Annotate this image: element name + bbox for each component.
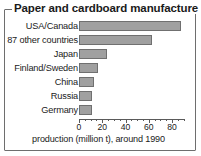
bar [79, 21, 181, 31]
x-axis-tick-label: 20 [92, 122, 112, 132]
bar [79, 105, 92, 115]
bar-row: Germany [0, 104, 201, 118]
category-label: Japan [0, 48, 78, 61]
bar-row: Finland/Sweden [0, 62, 201, 76]
category-label: USA/Canada [0, 20, 78, 33]
bar [79, 63, 98, 73]
x-axis-title: production (million t), around 1990 [0, 134, 197, 145]
bar-row: USA/Canada [0, 20, 201, 34]
bar-chart-plot: USA/Canada87 other countriesJapanFinland… [0, 0, 201, 156]
bar [79, 35, 152, 45]
category-label: Russia [0, 90, 78, 103]
x-axis-tick-label: 40 [116, 122, 136, 132]
bar [79, 91, 92, 101]
chart-figure: Paper and cardboard manufacture USA/Cana… [0, 0, 201, 156]
bar [79, 77, 94, 87]
bar-row: Russia [0, 90, 201, 104]
x-axis-tick-label: 80 [162, 122, 182, 132]
x-axis-tick-label: 60 [139, 122, 159, 132]
category-label: China [0, 76, 78, 89]
category-label: 87 other countries [0, 34, 78, 47]
category-label: Germany [0, 104, 78, 117]
x-axis-tick-label: 0 [69, 122, 89, 132]
x-axis-line [79, 119, 185, 120]
bar-row: China [0, 76, 201, 90]
bar-row: Japan [0, 48, 201, 62]
bar [79, 49, 107, 59]
category-label: Finland/Sweden [0, 62, 78, 75]
bar-row: 87 other countries [0, 34, 201, 48]
